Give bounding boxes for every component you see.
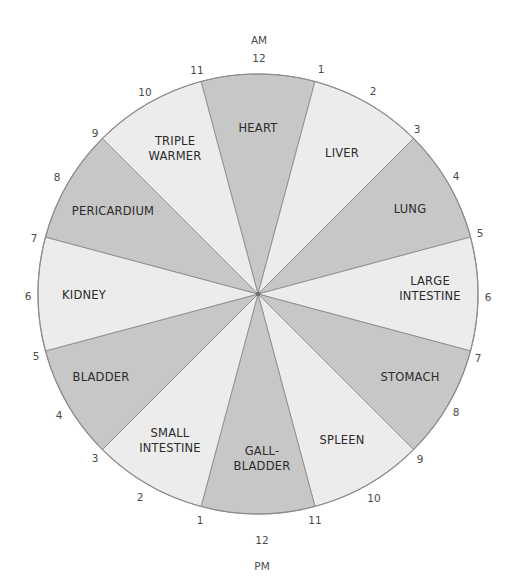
hour-mark: 11 [190,64,203,76]
hour-mark: 6 [485,291,492,303]
hour-mark: 12 [255,534,268,546]
hour-mark: 6 [25,290,32,302]
hour-mark: 3 [414,123,421,135]
hour-mark: 1 [197,514,204,526]
hour-mark: 12 [252,52,265,64]
hour-mark: 2 [137,491,144,503]
label-stomach: STOMACH [380,370,439,384]
hour-mark: 5 [33,350,40,362]
hour-mark: 5 [477,227,484,239]
hour-mark: 1 [318,63,325,75]
hour-mark: 11 [308,514,321,526]
hour-mark: 9 [417,453,424,465]
hour-mark: 4 [56,409,63,421]
label-spleen: SPLEEN [320,433,365,447]
hour-mark: 3 [92,452,99,464]
label-pericardium: PERICARDIUM [72,204,154,218]
am-label: AM [251,34,267,46]
hour-mark: 10 [367,492,380,504]
hour-mark: 8 [453,406,460,418]
label-kidney: KIDNEY [62,288,107,302]
hour-mark: 2 [370,85,377,97]
label-lung: LUNG [394,202,427,216]
hour-mark: 10 [138,86,151,98]
label-bladder: BLADDER [73,370,130,384]
organ-clock-diagram: HEARTLIVERLUNGLARGEINTESTINESTOMACHSPLEE… [0,0,520,587]
hour-mark: 8 [54,171,61,183]
label-heart: HEART [239,121,279,135]
pm-label: PM [254,560,269,572]
hour-mark: 7 [31,232,38,244]
hour-mark: 9 [92,127,99,139]
center-point [256,292,260,296]
label-triple-warmer: TRIPLEWARMER [149,134,202,163]
hour-mark: 4 [453,170,460,182]
hour-mark: 7 [475,352,482,364]
label-liver: LIVER [325,146,359,160]
